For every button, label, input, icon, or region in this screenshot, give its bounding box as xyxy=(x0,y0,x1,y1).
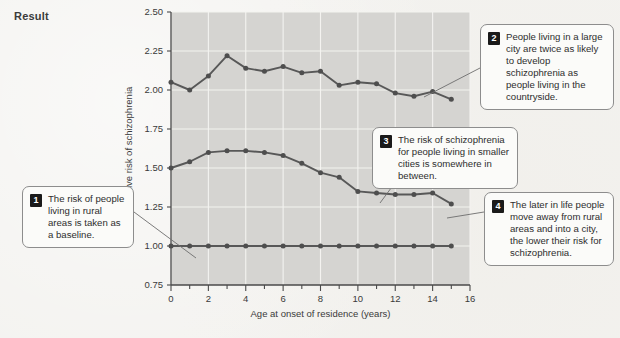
y-axis-tick-label: 1.25 xyxy=(145,201,164,212)
series-1-data-point xyxy=(355,80,360,85)
x-axis-tick-label: 2 xyxy=(206,293,211,304)
callout-2: 2 People living in a large city are twic… xyxy=(480,24,614,110)
series-2-data-point xyxy=(411,192,416,197)
series-2-data-point xyxy=(225,148,230,153)
series-3-data-point xyxy=(187,244,192,249)
callout-4-number: 4 xyxy=(492,200,504,213)
y-axis-tick-label: 2.25 xyxy=(145,45,164,56)
series-3-data-point xyxy=(281,244,286,249)
callout-2-text: People living in a large city are twice … xyxy=(506,31,605,103)
series-1-data-point xyxy=(449,97,454,102)
series-2-data-point xyxy=(187,159,192,164)
series-1-data-point xyxy=(374,81,379,86)
series-2-data-point xyxy=(281,153,286,158)
series-3-data-point xyxy=(374,244,379,249)
series-2-data-point xyxy=(337,175,342,180)
callout-3: 3 The risk of schizophrenia for people l… xyxy=(372,127,518,189)
series-2-data-point xyxy=(243,148,248,153)
callout-1-number: 1 xyxy=(30,194,42,207)
result-panel: Result 0.751.001.251.501.752.002.252.500… xyxy=(0,0,620,338)
callout-2-number: 2 xyxy=(488,32,500,45)
y-axis-tick-label: 1.00 xyxy=(145,240,164,251)
x-axis-tick-label: 16 xyxy=(465,293,476,304)
series-1-data-point xyxy=(206,73,211,78)
series-3-data-point xyxy=(299,244,304,249)
series-1-data-point xyxy=(393,91,398,96)
y-axis-tick-label: 2.50 xyxy=(145,6,164,17)
callout-3-text: The risk of schizophrenia for people liv… xyxy=(398,134,509,182)
series-3-data-point xyxy=(411,244,416,249)
x-axis-tick-label: 4 xyxy=(243,293,248,304)
series-3-data-point xyxy=(393,244,398,249)
series-3-data-point xyxy=(243,244,248,249)
series-3-data-point xyxy=(169,244,174,249)
series-3-data-point xyxy=(355,244,360,249)
y-axis-tick-label: 1.50 xyxy=(145,162,164,173)
x-axis-tick-label: 12 xyxy=(390,293,401,304)
series-3-data-point xyxy=(430,244,435,249)
series-1-data-point xyxy=(411,94,416,99)
series-1-data-point xyxy=(337,83,342,88)
series-2-data-point xyxy=(449,201,454,206)
series-2-data-point xyxy=(355,189,360,194)
series-2-data-point xyxy=(206,150,211,155)
callout-4: 4 The later in life people move away fro… xyxy=(484,192,614,266)
x-axis-tick-label: 14 xyxy=(427,293,438,304)
callout-1: 1 The risk of people living in rural are… xyxy=(22,186,134,248)
y-axis-tick-label: 0.75 xyxy=(145,279,164,290)
series-1-data-point xyxy=(187,88,192,93)
series-1-data-point xyxy=(262,69,267,74)
series-3-data-point xyxy=(449,244,454,249)
callout-3-number: 3 xyxy=(380,135,392,148)
y-axis-tick-label: 1.75 xyxy=(145,123,164,134)
series-3-data-point xyxy=(262,244,267,249)
series-3-data-point xyxy=(337,244,342,249)
series-1-data-point xyxy=(243,66,248,71)
x-axis-tick-label: 6 xyxy=(280,293,285,304)
series-3-data-point xyxy=(225,244,230,249)
series-2-data-point xyxy=(430,190,435,195)
series-1-data-point xyxy=(225,53,230,58)
callout-1-text: The risk of people living in rural areas… xyxy=(48,193,125,241)
x-axis-tick-label: 0 xyxy=(168,293,173,304)
series-3-data-point xyxy=(318,244,323,249)
x-axis-label: Age at onset of residence (years) xyxy=(251,308,391,319)
series-2-data-point xyxy=(393,192,398,197)
series-1-data-point xyxy=(169,80,174,85)
x-axis-tick-label: 8 xyxy=(318,293,323,304)
y-axis-tick-label: 2.00 xyxy=(145,84,164,95)
series-1-data-point xyxy=(281,64,286,69)
series-3-data-point xyxy=(206,244,211,249)
series-1-data-point xyxy=(318,69,323,74)
series-2-data-point xyxy=(299,161,304,166)
series-1-data-point xyxy=(299,70,304,75)
callout-4-text: The later in life people move away from … xyxy=(510,199,605,259)
series-2-data-point xyxy=(262,150,267,155)
x-axis-tick-label: 10 xyxy=(353,293,364,304)
series-2-data-point xyxy=(169,166,174,171)
series-2-data-point xyxy=(374,190,379,195)
series-2-data-point xyxy=(318,170,323,175)
